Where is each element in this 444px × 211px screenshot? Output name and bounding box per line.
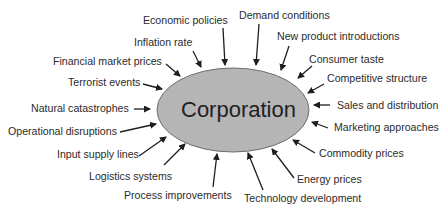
arrow-energy-prices: [272, 149, 294, 178]
label-economic-policies: Economic policies: [143, 14, 228, 26]
arrow-process-improvements: [213, 154, 217, 187]
arrow-competitive-structure: [308, 84, 324, 93]
label-sales-and-distribution: Sales and distribution: [337, 99, 438, 111]
arrow-consumer-taste: [298, 66, 312, 78]
label-technology-development: Technology development: [244, 192, 361, 204]
label-natural-catastrophes: Natural catastrophes: [31, 102, 129, 114]
label-consumer-taste: Consumer taste: [309, 53, 384, 65]
arrow-new-product: [281, 46, 289, 70]
arrow-economic-policies: [223, 28, 225, 65]
center-label: Corporation: [181, 98, 296, 122]
label-financial-market-prices: Financial market prices: [53, 55, 162, 67]
label-marketing-approaches: Marketing approaches: [334, 121, 439, 133]
arrow-input-supply-lines: [139, 137, 166, 156]
arrow-inflation-rate: [193, 51, 201, 67]
arrow-terrorist-events: [143, 84, 162, 89]
label-inflation-rate: Inflation rate: [134, 36, 192, 48]
arrow-technology-development: [248, 153, 263, 190]
label-commodity-prices: Commodity prices: [319, 147, 404, 159]
risk-factors-diagram: Corporation Economic policies Demand con…: [0, 0, 444, 211]
label-demand-conditions: Demand conditions: [239, 9, 330, 21]
arrow-logistics-systems: [164, 144, 185, 165]
arrow-demand-conditions: [256, 24, 259, 65]
label-terrorist-events: Terrorist events: [68, 76, 140, 88]
label-competitive-structure: Competitive structure: [327, 72, 427, 84]
arrow-commodity-prices: [293, 140, 315, 153]
label-energy-prices: Energy prices: [297, 173, 362, 185]
label-logistics-systems: Logistics systems: [89, 170, 172, 182]
arrow-marketing-approaches: [312, 122, 328, 128]
arrow-financial-market: [166, 64, 180, 76]
label-new-product-introductions: New product introductions: [277, 30, 399, 42]
label-process-improvements: Process improvements: [124, 189, 232, 201]
arrow-operational-disruptions: [120, 124, 156, 132]
label-operational-disruptions: Operational disruptions: [8, 125, 117, 137]
label-input-supply-lines: Input supply lines: [57, 148, 139, 160]
